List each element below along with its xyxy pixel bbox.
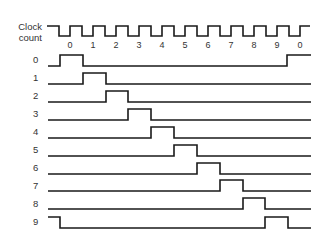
row-waveform-9 <box>48 217 311 228</box>
clock-waveform <box>47 26 310 36</box>
row-waveform-4 <box>48 127 311 138</box>
row-waveform-0 <box>48 55 311 66</box>
row-waveform-8 <box>48 198 311 209</box>
row-waveform-7 <box>48 180 311 191</box>
row-waveform-1 <box>48 73 311 84</box>
row-waveform-5 <box>48 145 311 156</box>
row-waveform-2 <box>48 91 311 102</box>
row-waveform-3 <box>48 109 311 120</box>
waveforms <box>0 0 328 248</box>
row-waveform-6 <box>48 163 311 174</box>
